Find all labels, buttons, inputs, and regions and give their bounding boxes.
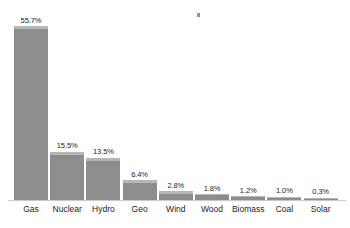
- bar-rect: [304, 198, 338, 201]
- bar-value-label: 13.5%: [93, 147, 114, 156]
- bar-stack: 15.5%: [50, 0, 84, 200]
- category-label: Solar: [295, 203, 347, 215]
- bar-rect: [86, 158, 120, 200]
- bar-stack: 0.3%: [304, 0, 338, 200]
- bar-group: 2.8%: [159, 0, 193, 200]
- bar-value-label: 15.5%: [57, 141, 78, 150]
- bar-value-label: 6.4%: [131, 170, 148, 179]
- bar-stack: 1.2%: [231, 0, 265, 200]
- bar-value-label: 2.8%: [167, 181, 184, 190]
- bar-group: 1.0%: [267, 0, 301, 200]
- bar-value-label: 1.2%: [240, 186, 257, 195]
- bar-rect: [231, 196, 265, 200]
- bar-group: 0.3%: [304, 0, 338, 200]
- bar-rect: [14, 26, 48, 200]
- bar-group: 13.5%: [86, 0, 120, 200]
- bar-value-label: 1.0%: [276, 186, 293, 195]
- bar-stack: 55.7%: [14, 0, 48, 200]
- bar-stack: 2.8%: [159, 0, 193, 200]
- bar-group: 15.5%: [50, 0, 84, 200]
- bar-stack: 6.4%: [123, 0, 157, 200]
- bar-stack: 13.5%: [86, 0, 120, 200]
- bar-rect: [195, 194, 229, 200]
- chart-plot-area: 55.7%Gas15.5%Nuclear13.5%Hydro6.4%Geo2.8…: [0, 0, 350, 228]
- bar-group: 1.8%: [195, 0, 229, 200]
- bar-stack: 1.8%: [195, 0, 229, 200]
- bar-rect: [123, 180, 157, 200]
- bar-group: 6.4%: [123, 0, 157, 200]
- bar-group: 1.2%: [231, 0, 265, 200]
- bar-value-label: 0.3%: [312, 187, 329, 196]
- bar-rect: [267, 197, 301, 200]
- bar-stack: 1.0%: [267, 0, 301, 200]
- bar-rect: [159, 191, 193, 200]
- bar-value-label: 1.8%: [204, 184, 221, 193]
- bar-group: 55.7%: [14, 0, 48, 200]
- bar-value-label: 55.7%: [21, 16, 42, 25]
- bar-chart-screenshot: 55.7%Gas15.5%Nuclear13.5%Hydro6.4%Geo2.8…: [0, 0, 350, 228]
- bar-rect: [50, 152, 84, 200]
- category-axis-line: [8, 200, 346, 201]
